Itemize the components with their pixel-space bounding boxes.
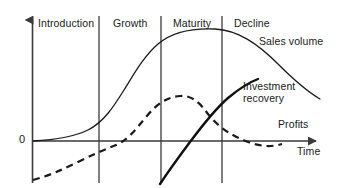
stage-label-growth: Growth (113, 18, 147, 30)
series-profits (33, 96, 282, 180)
axis-origin-label: 0 (19, 134, 25, 146)
x-axis-title: Time (297, 146, 320, 158)
product-life-cycle-figure: Introduction Growth Maturity Decline 0 S… (0, 0, 345, 188)
series-label-profits: Profits (278, 119, 308, 131)
series-label-investment-recovery-line1: Investment (243, 80, 295, 92)
series-label-sales-volume: Sales volume (259, 36, 323, 48)
stage-label-introduction: Introduction (38, 18, 94, 30)
stage-label-maturity: Maturity (173, 18, 211, 30)
series-label-investment-recovery-line2: recovery (243, 92, 284, 104)
stage-label-decline: Decline (234, 18, 270, 30)
